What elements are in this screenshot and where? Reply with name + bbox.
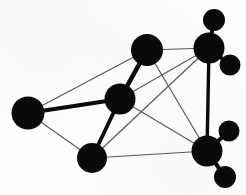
node-ur-satellite-b: [220, 55, 241, 76]
node-upper-right: [194, 33, 225, 64]
molecular-lattice-figure: [0, 0, 246, 195]
lattice-line-bottom-middle-to-lower-right: [92, 151, 207, 158]
node-lr-satellite-b: [214, 166, 236, 188]
node-top-middle: [131, 34, 163, 66]
node-left: [12, 97, 45, 130]
node-ur-satellite-a: [203, 9, 225, 31]
node-lr-satellite-a: [219, 121, 240, 142]
node-bottom-middle: [77, 143, 107, 173]
lattice-canvas: [0, 0, 246, 195]
node-lower-right: [192, 136, 223, 167]
lattice-line-top-middle-to-lower-right: [147, 50, 207, 151]
node-layer: [12, 9, 241, 188]
node-center: [105, 84, 136, 115]
